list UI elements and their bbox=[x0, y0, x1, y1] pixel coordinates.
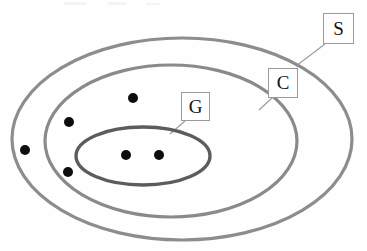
label-box-s: S bbox=[323, 13, 354, 44]
element-point bbox=[20, 145, 30, 155]
label-text-s: S bbox=[333, 19, 344, 38]
label-text-g: G bbox=[189, 97, 203, 116]
element-point bbox=[121, 150, 131, 160]
element-point bbox=[128, 93, 138, 103]
label-box-c: C bbox=[268, 68, 298, 98]
set-diagram bbox=[0, 0, 367, 251]
element-point bbox=[64, 117, 74, 127]
diagram-canvas: S C G bbox=[0, 0, 367, 251]
label-text-c: C bbox=[277, 73, 290, 92]
set-ellipse-s bbox=[12, 38, 352, 240]
element-points bbox=[20, 93, 164, 177]
set-ellipse-g bbox=[76, 127, 210, 185]
leader-line-c bbox=[259, 98, 272, 110]
set-ellipses bbox=[12, 38, 352, 240]
element-point bbox=[154, 150, 164, 160]
element-point bbox=[63, 167, 73, 177]
label-box-g: G bbox=[181, 92, 210, 121]
leader-line-s bbox=[296, 44, 325, 66]
